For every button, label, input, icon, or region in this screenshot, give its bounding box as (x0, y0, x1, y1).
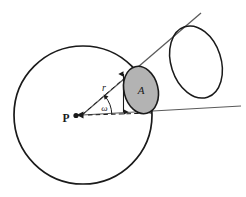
label-solid-angle-omega: ω (101, 103, 107, 113)
label-radius-r: r (102, 82, 106, 93)
point-p-marker (73, 113, 78, 118)
far-ellipse-outline (161, 19, 231, 105)
label-point-p: P (62, 112, 69, 124)
solid-angle-diagram: P r ω A (0, 0, 246, 197)
label-area-a: A (137, 84, 145, 96)
figure-canvas: P r ω A (0, 0, 246, 197)
